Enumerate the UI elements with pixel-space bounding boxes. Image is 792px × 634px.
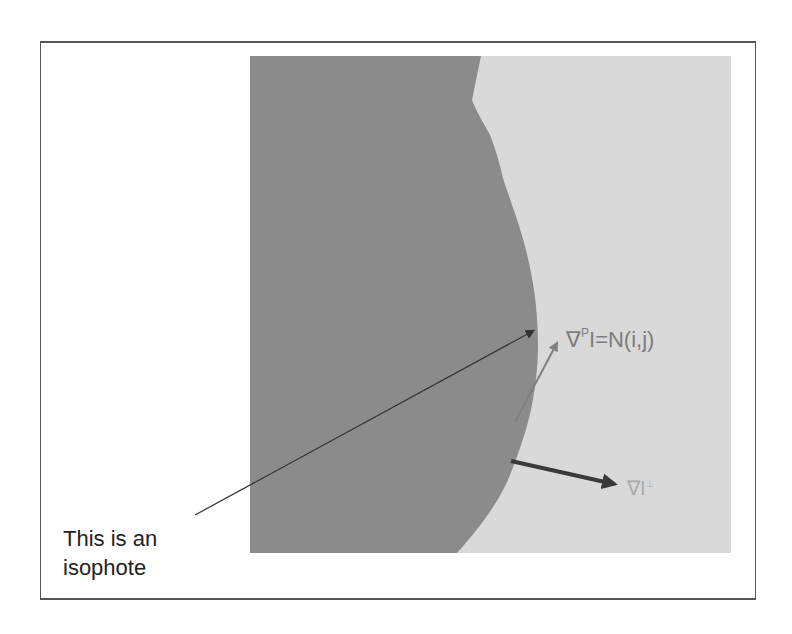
normal-vector-label: ∇PI=N(i,j) <box>566 327 654 353</box>
isophote-caption: This is an isophote <box>63 524 157 582</box>
caption-line-2: isophote <box>63 553 157 582</box>
nabla-symbol: ∇ <box>627 477 640 499</box>
normal-equation: I=N(i,j) <box>589 327 654 352</box>
gradient-vector-label: ∇I⊥ <box>627 476 654 500</box>
nabla-symbol: ∇ <box>566 327 581 352</box>
normal-superscript: P <box>581 326 589 340</box>
gradient-superscript: ⊥ <box>646 479 654 489</box>
caption-line-1: This is an <box>63 524 157 553</box>
